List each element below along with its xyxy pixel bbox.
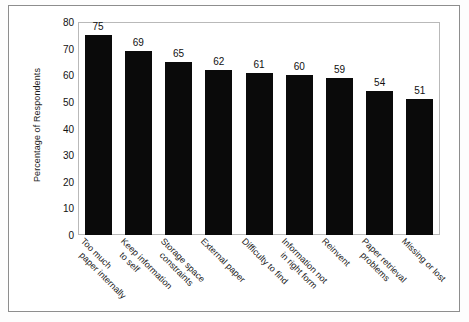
bar-slot: 65 bbox=[165, 22, 192, 235]
y-axis-tick-label: 20 bbox=[48, 176, 74, 187]
bar-slot: 54 bbox=[366, 22, 393, 235]
x-axis-category-labels: Too muchpaper internallyKeep information… bbox=[78, 236, 458, 322]
bar[interactable] bbox=[326, 78, 353, 235]
bar[interactable] bbox=[85, 35, 112, 235]
bar[interactable] bbox=[125, 51, 152, 235]
y-axis-tick-label: 40 bbox=[48, 123, 74, 134]
bar[interactable] bbox=[165, 62, 192, 235]
bar-value-label: 69 bbox=[133, 37, 144, 48]
bar-value-label: 62 bbox=[213, 56, 224, 67]
bar[interactable] bbox=[366, 91, 393, 235]
bar-value-label: 61 bbox=[253, 59, 264, 70]
bar-value-label: 75 bbox=[93, 21, 104, 32]
y-axis-tick-label: 10 bbox=[48, 203, 74, 214]
bar[interactable] bbox=[205, 70, 232, 235]
y-axis-tick-labels: 01020304050607080 bbox=[44, 0, 74, 322]
y-axis-tick-label: 50 bbox=[48, 96, 74, 107]
bar-value-label: 65 bbox=[173, 48, 184, 59]
bar-value-label: 60 bbox=[294, 61, 305, 72]
y-axis-tick-label: 80 bbox=[48, 17, 74, 28]
bar-slot: 51 bbox=[406, 22, 433, 235]
bar[interactable] bbox=[286, 75, 313, 235]
bar-slot: 61 bbox=[246, 22, 273, 235]
category-label-line: Reinvent bbox=[320, 236, 352, 268]
y-axis-title: Percentage of Respondents bbox=[32, 40, 42, 210]
bar-slot: 69 bbox=[125, 22, 152, 235]
bar-slot: 59 bbox=[326, 22, 353, 235]
bar-slot: 62 bbox=[205, 22, 232, 235]
bar[interactable] bbox=[246, 73, 273, 235]
bar[interactable] bbox=[406, 99, 433, 235]
bars-layer: 756965626160595451 bbox=[78, 22, 440, 235]
bar-slot: 60 bbox=[286, 22, 313, 235]
bar-slot: 75 bbox=[85, 22, 112, 235]
y-axis-tick-label: 60 bbox=[48, 70, 74, 81]
y-axis-tick-label: 0 bbox=[48, 230, 74, 241]
bar-value-label: 54 bbox=[374, 77, 385, 88]
y-axis-tick-label: 70 bbox=[48, 43, 74, 54]
figure-container: Percentage of Respondents 01020304050607… bbox=[0, 0, 469, 322]
bar-value-label: 59 bbox=[334, 64, 345, 75]
y-axis-tick-label: 30 bbox=[48, 150, 74, 161]
x-axis-category-label: Reinvent bbox=[319, 236, 352, 269]
bar-value-label: 51 bbox=[414, 85, 425, 96]
